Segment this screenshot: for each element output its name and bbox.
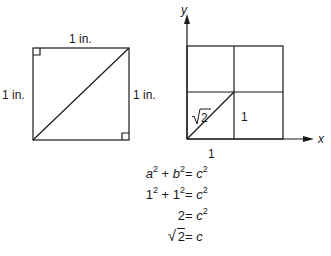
equation-row-4: √2 = c — [0, 229, 331, 249]
eq3-lhs: 2 — [178, 208, 185, 223]
eq3-c-exp: 2 — [203, 206, 208, 216]
equation-row-3: 2 = c2 — [0, 208, 331, 228]
equation-row-2: 12 + 12 = c2 — [0, 187, 331, 207]
eq1-equals: = — [185, 166, 193, 181]
eq1-plus: + — [162, 166, 170, 181]
sqrt-two: √2 — [168, 229, 185, 244]
eq2-equals: = — [185, 187, 193, 202]
eq4-radicand: 2 — [177, 228, 185, 244]
eq4-equals: = — [185, 229, 193, 244]
eq1-a: a — [146, 166, 153, 181]
radical-sign-icon: √ — [168, 227, 176, 244]
eq1-b: b — [173, 166, 180, 181]
eq3-equals: = — [185, 208, 193, 223]
eq2-a: 1 — [146, 187, 153, 202]
eq2-b: 1 — [173, 187, 180, 202]
eq2-a-exp: 2 — [153, 185, 158, 195]
eq1-a-exp: 2 — [153, 164, 158, 174]
eq4-c: c — [196, 229, 203, 244]
equation-row-1: a2 + b2 = c2 — [0, 166, 331, 186]
eq2-plus: + — [162, 187, 170, 202]
equations-block: a2 + b2 = c2 12 + 12 = c2 2 = c2 √2 — [0, 0, 331, 256]
eq2-c-exp: 2 — [203, 185, 208, 195]
eq1-c-exp: 2 — [203, 164, 208, 174]
